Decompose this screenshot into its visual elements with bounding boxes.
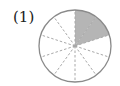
sector-divider-line xyxy=(75,46,109,57)
sector-divider-line xyxy=(54,17,75,46)
sector-divider-line xyxy=(41,35,75,46)
sector-divider-line xyxy=(75,46,96,75)
shaded-sectors xyxy=(75,10,109,46)
sector-divider-line xyxy=(54,46,75,75)
sector-divider-line xyxy=(41,46,75,57)
fraction-circle xyxy=(0,0,120,86)
